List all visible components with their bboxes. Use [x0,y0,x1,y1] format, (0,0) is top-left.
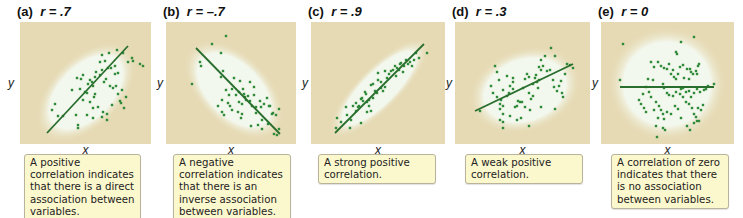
data-point [679,66,681,68]
data-point [675,78,677,80]
data-point [668,63,670,65]
data-point [690,96,692,98]
data-point [648,91,650,93]
data-point [672,69,674,71]
data-point [688,90,690,92]
data-point [689,68,691,70]
data-point [702,104,704,106]
data-point [695,70,697,72]
y-axis-label: y [592,76,598,90]
data-point [647,78,649,80]
data-point [699,91,701,93]
data-point [693,122,695,124]
data-point [693,92,695,94]
data-point [680,41,682,43]
data-point [680,88,682,90]
data-point [688,78,690,80]
data-point [655,125,657,127]
data-point [658,105,660,107]
data-point [680,117,682,119]
data-point [685,101,687,103]
data-point [622,43,624,45]
data-point [666,111,668,113]
data-point [662,83,664,85]
data-point [705,88,707,90]
data-point [650,61,652,63]
data-point [696,73,698,75]
data-point [698,120,700,122]
data-point [696,88,698,90]
data-point [642,93,644,95]
data-point [670,113,672,115]
data-point [643,107,645,109]
data-point [656,136,658,138]
data-point [697,107,699,109]
data-point [693,36,695,38]
scatter-panel-e: (e) r = 0 y x A correlation of zero indi… [0,0,743,218]
data-point [692,73,694,75]
plot-area [601,22,734,144]
data-point [660,65,662,67]
data-point [672,95,674,97]
data-point [653,109,655,111]
data-point [677,73,679,75]
data-point [653,66,655,68]
data-point [693,113,695,115]
data-point [660,109,662,111]
data-point [670,73,672,75]
panel-title: (e) r = 0 [598,4,648,19]
data-point [695,116,697,118]
data-point [686,125,688,127]
point-cloud-highlight [607,26,727,142]
data-point [689,129,691,131]
data-point [683,77,685,79]
data-point [638,99,640,101]
data-point [668,94,670,96]
data-point [619,79,621,81]
data-point [662,113,664,115]
r-value-label: r = 0 [621,4,648,19]
data-point [650,96,652,98]
data-point [657,117,659,119]
data-point [676,53,678,55]
data-point [677,108,679,110]
data-point [685,91,687,93]
data-point [679,93,681,95]
data-point [713,83,715,85]
data-point [645,111,647,113]
data-point [674,105,676,107]
scatter-plot [601,22,734,144]
data-point [652,79,654,81]
panel-label: (e) [598,4,614,19]
data-point [691,107,693,109]
data-point [640,103,642,105]
data-point [655,101,657,103]
data-point [666,68,668,70]
data-point [686,68,688,70]
data-point [657,61,659,63]
data-point [682,64,684,66]
data-point [675,91,677,93]
data-point [688,103,690,105]
data-point [663,67,665,69]
data-point [663,118,665,120]
data-point [698,63,700,65]
data-point [700,109,702,111]
data-point [682,96,684,98]
data-point [664,129,666,131]
caption-box: A correlation of zero indicates that the… [611,154,729,209]
